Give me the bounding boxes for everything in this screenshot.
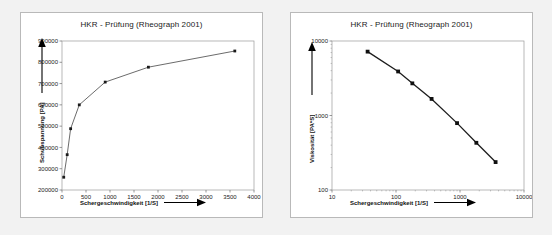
x-tick-label: 2500 bbox=[175, 194, 189, 200]
x-tick-label: 3500 bbox=[223, 194, 237, 200]
x-tick-label: 10 bbox=[329, 194, 336, 200]
data-point-marker bbox=[474, 141, 478, 145]
chart-panel-right: HKR - Prüfung (Rheograph 2001) 100100010… bbox=[290, 12, 533, 218]
data-point-marker bbox=[396, 70, 400, 74]
y-tick-label: 10000 bbox=[311, 38, 328, 44]
data-point-marker bbox=[430, 97, 434, 101]
data-point-marker bbox=[366, 50, 370, 54]
x-axis-ticks-right: 10100100010000 bbox=[329, 190, 532, 200]
data-point-marker bbox=[104, 81, 107, 84]
data-point-marker bbox=[69, 127, 72, 130]
x-tick-label: 4000 bbox=[247, 194, 261, 200]
x-tick-label: 0 bbox=[60, 194, 64, 200]
x-axis-title-left: Schergeschwindigkeit [1/S] bbox=[80, 200, 158, 206]
data-point-marker bbox=[494, 160, 498, 164]
plot-frame-left bbox=[62, 41, 254, 190]
y-tick-label: 700000 bbox=[38, 81, 59, 87]
x-tick-label: 10000 bbox=[516, 194, 532, 200]
x-axis-ticks-left: 05001000150020002500300035004000 bbox=[60, 190, 261, 200]
y-tick-label: 200000 bbox=[38, 187, 59, 193]
x-tick-label: 1000 bbox=[453, 194, 467, 200]
y-tick-label: 1000 bbox=[315, 113, 329, 119]
data-point-marker bbox=[455, 121, 459, 125]
chart-svg-right: 100100010000 10100100010000 Viskosität [… bbox=[291, 13, 532, 217]
x-tick-label: 3000 bbox=[199, 194, 213, 200]
x-axis-title-right: Schergeschwindigkeit [1/S] bbox=[350, 200, 428, 206]
chart-canvas-right: 100100010000 10100100010000 Viskosität [… bbox=[291, 13, 532, 217]
y-tick-label: 800000 bbox=[38, 59, 59, 65]
data-point-marker bbox=[62, 176, 65, 179]
y-tick-label: 300000 bbox=[38, 166, 59, 172]
data-point-marker bbox=[410, 81, 414, 85]
plot-frame-right bbox=[332, 41, 524, 190]
chart-panel-left: HKR - Prüfung (Rheograph 2001) 200000300… bbox=[20, 12, 263, 218]
data-point-marker bbox=[66, 153, 69, 156]
data-point-marker bbox=[147, 66, 150, 69]
y-tick-label: 100 bbox=[318, 187, 329, 193]
y-axis-title-left: Schubspannung [PA] bbox=[39, 102, 45, 163]
y-axis-arrow-right bbox=[308, 42, 316, 95]
screenshot-root: HKR - Prüfung (Rheograph 2001) 200000300… bbox=[0, 0, 552, 235]
y-axis-title-right: Viskosität [PA*S] bbox=[309, 115, 315, 163]
chart-svg-left: 2000003000004000005000006000007000008000… bbox=[21, 13, 262, 217]
data-point-marker bbox=[78, 103, 81, 106]
chart-canvas-left: 2000003000004000005000006000007000008000… bbox=[21, 13, 262, 217]
data-point-marker bbox=[233, 50, 236, 53]
